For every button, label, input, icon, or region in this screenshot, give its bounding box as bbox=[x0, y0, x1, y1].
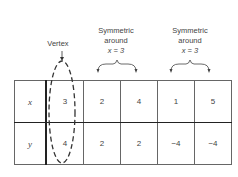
annotation-overlay bbox=[0, 0, 238, 177]
brace-icon-2 bbox=[171, 60, 209, 71]
vertex-ellipse bbox=[49, 61, 75, 163]
arrow-down-icon bbox=[60, 51, 64, 61]
brace-icon-1 bbox=[98, 60, 136, 71]
